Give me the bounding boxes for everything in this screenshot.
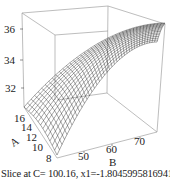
b-tick-50: 50 bbox=[78, 150, 90, 162]
slice-caption: Slice at C= 100.16, x1=-1.80459958169412 bbox=[1, 168, 170, 179]
z-tick-32: 32 bbox=[5, 82, 16, 94]
b-tick-70: 70 bbox=[134, 135, 146, 147]
a-axis-title: A bbox=[8, 134, 21, 148]
a-tick-8: 8 bbox=[46, 152, 52, 164]
b-axis-title: B bbox=[109, 156, 116, 168]
a-tick-10: 10 bbox=[32, 141, 44, 153]
surface-plot: 36 34 32 16 14 12 10 8 A 50 60 70 B bbox=[0, 0, 170, 182]
b-tick-60: 60 bbox=[106, 143, 118, 155]
z-tick-34: 34 bbox=[4, 54, 16, 66]
z-tick-36: 36 bbox=[4, 23, 16, 35]
